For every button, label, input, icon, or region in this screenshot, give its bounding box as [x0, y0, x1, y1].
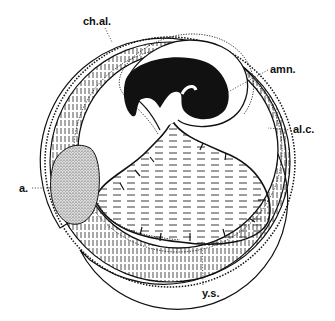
label-amn: amn.	[270, 63, 296, 75]
embryo-diagram: ch.al. amn. al.c. a. y.s.	[0, 0, 335, 321]
label-al-c: al.c.	[293, 123, 314, 135]
label-y-s: y.s.	[202, 287, 220, 299]
label-a: a.	[19, 182, 28, 194]
label-ch-al: ch.al.	[83, 15, 111, 27]
allantois	[51, 145, 100, 224]
